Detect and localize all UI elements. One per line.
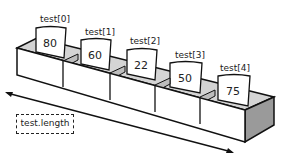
- length-label: test.length: [16, 114, 74, 134]
- element-value-3: 50: [170, 72, 200, 85]
- array-boxes-diagram: [0, 0, 289, 167]
- element-label-2: test[2]: [130, 36, 160, 46]
- element-label-1: test[1]: [85, 27, 115, 37]
- element-value-1: 60: [80, 49, 110, 62]
- element-value-2: 22: [126, 59, 156, 72]
- element-label-4: test[4]: [220, 63, 250, 73]
- element-value-0: 80: [35, 37, 65, 50]
- element-label-3: test[3]: [175, 50, 205, 60]
- element-value-4: 75: [218, 85, 248, 98]
- element-label-0: test[0]: [40, 14, 70, 24]
